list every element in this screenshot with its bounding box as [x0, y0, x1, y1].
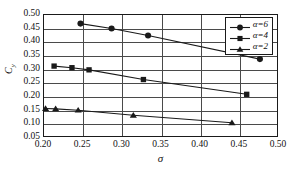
data-point-square — [244, 92, 249, 97]
chart-figure: 0.050.100.150.200.250.300.350.400.450.50… — [0, 0, 288, 172]
legend-label: α=6 — [251, 20, 268, 29]
x-axis-tick-label: 0.20 — [23, 140, 63, 150]
x-axis-tick-label: 0.40 — [180, 140, 220, 150]
x-axis-tick-label: 0.45 — [219, 140, 259, 150]
x-axis-label: σ — [43, 152, 278, 164]
legend-marker-triangle-icon — [229, 41, 251, 52]
y-axis-tick-label: 0.10 — [0, 119, 40, 129]
plot-area: α=6α=4α=2 — [43, 14, 278, 137]
series-line — [54, 66, 247, 94]
y-axis-tick-label: 0.45 — [0, 23, 40, 33]
legend-marker-circle-icon — [229, 19, 251, 30]
legend-label: α=4 — [251, 31, 268, 40]
data-point-circle — [145, 32, 151, 38]
legend-item: α=2 — [229, 41, 268, 52]
legend-item: α=4 — [229, 30, 268, 41]
legend-marker-square-icon — [229, 30, 251, 41]
y-axis-tick-label: 0.15 — [0, 105, 40, 115]
legend-label: α=2 — [251, 42, 268, 51]
series-line — [46, 109, 232, 123]
data-point-circle — [77, 21, 83, 27]
data-point-square — [86, 67, 91, 72]
x-axis-tick-label: 0.25 — [62, 140, 102, 150]
series-2 — [51, 63, 249, 97]
x-axis-tick-labels: 0.200.250.300.350.400.450.50 — [43, 140, 278, 152]
x-axis-tick-label: 0.35 — [141, 140, 181, 150]
data-point-square — [69, 65, 74, 70]
y-axis-tick-label: 0.50 — [0, 9, 40, 19]
y-axis-label-subscript: y — [9, 64, 17, 67]
data-point-circle — [257, 56, 263, 62]
x-axis-tick-label: 0.50 — [258, 140, 288, 150]
data-point-square — [51, 63, 56, 68]
series-3 — [42, 105, 236, 125]
legend-item: α=6 — [229, 19, 268, 30]
data-point-square — [141, 77, 146, 82]
y-axis-tick-label: 0.40 — [0, 37, 40, 47]
y-axis-label-base: C — [3, 67, 14, 74]
data-point-circle — [108, 25, 114, 31]
y-axis-label: Cy — [3, 57, 17, 81]
y-axis-tick-label: 0.20 — [0, 91, 40, 101]
x-axis-tick-label: 0.30 — [101, 140, 141, 150]
legend: α=6α=4α=2 — [225, 17, 273, 55]
